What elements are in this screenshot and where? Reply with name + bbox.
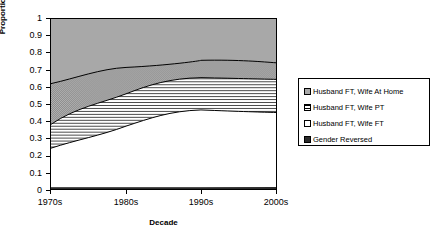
y-tick-label-8: 0.8 (8, 48, 42, 57)
legend-item-husband-ft-wife-at-home: Husband FT, Wife At Home (304, 84, 425, 99)
gray-stipple-swatch-icon (304, 88, 311, 95)
plot-svg (51, 19, 276, 189)
y-tick-label-4: 0.4 (8, 117, 42, 126)
y-tick-label-1: 0.1 (8, 169, 42, 178)
legend-label-husband-ft-wife-pt: Husband FT, Wife PT (313, 104, 384, 112)
x-tick-mark-1970s (50, 190, 51, 194)
y-tick-label-9: 0.9 (8, 31, 42, 40)
dark-swatch-icon (304, 136, 311, 143)
x-tick-mark-1990s (201, 190, 202, 194)
x-tick-label-1970s: 1970s (25, 198, 75, 207)
x-tick-mark-1980s (126, 190, 127, 194)
plot-area (50, 18, 277, 190)
legend-item-gender-reversed: Gender Reversed (304, 132, 425, 147)
legend-item-husband-ft-wife-ft: Husband FT, Wife FT (304, 116, 425, 131)
x-tick-mark-2000s (276, 190, 277, 194)
legend-label-husband-ft-wife-at-home: Husband FT, Wife At Home (313, 88, 403, 96)
horizontal-lines-swatch-icon (304, 104, 311, 111)
legend-item-husband-ft-wife-pt: Husband FT, Wife PT (304, 100, 425, 115)
x-axis-title: Decade (50, 218, 277, 227)
legend-label-gender-reversed: Gender Reversed (313, 136, 372, 144)
x-tick-label-2000s: 2000s (251, 198, 301, 207)
y-tick-label-7: 0.7 (8, 66, 42, 75)
x-tick-label-1990s: 1990s (176, 198, 226, 207)
white-swatch-icon (304, 120, 311, 127)
y-tick-label-3: 0.3 (8, 134, 42, 143)
stacked-area-chart: Proportion in Strategy 0 0.1 0.2 0.3 0.4… (0, 0, 437, 241)
y-tick-label-2: 0.2 (8, 151, 42, 160)
y-tick-label-5: 0.5 (8, 100, 42, 109)
legend-label-husband-ft-wife-ft: Husband FT, Wife FT (313, 120, 384, 128)
x-tick-label-1980s: 1980s (101, 198, 151, 207)
y-tick-label-0: 0 (8, 186, 42, 195)
chart-legend: Husband FT, Wife At Home Husband FT, Wif… (298, 78, 430, 146)
y-tick-label-6: 0.6 (8, 83, 42, 92)
y-tick-label-10: 1 (8, 14, 42, 23)
y-axis-title: Proportion in Strategy (0, 0, 7, 52)
